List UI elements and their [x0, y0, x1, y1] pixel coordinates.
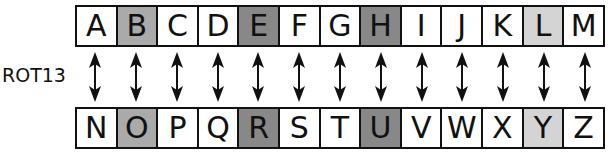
- letter-cell-z: Z: [564, 109, 603, 147]
- letter-cell-i: I: [402, 7, 443, 45]
- double-arrow-icon: [279, 50, 320, 104]
- letter-cell-x: X: [483, 109, 524, 147]
- letter-cell-k: K: [483, 7, 524, 45]
- letter-cell-e: E: [239, 7, 280, 45]
- double-arrow-icon: [442, 50, 483, 104]
- double-arrow-icon: [320, 50, 361, 104]
- letter-cell-r: R: [239, 109, 280, 147]
- mapping-arrows: [75, 50, 605, 104]
- letter-cell-n: N: [77, 109, 118, 147]
- double-arrow-icon: [564, 50, 605, 104]
- letter-cell-u: U: [361, 109, 402, 147]
- letter-cell-o: O: [118, 109, 159, 147]
- letter-cell-j: J: [442, 7, 483, 45]
- letter-cell-s: S: [280, 109, 321, 147]
- double-arrow-icon: [157, 50, 198, 104]
- letter-cell-y: Y: [524, 109, 565, 147]
- letter-cell-l: L: [524, 7, 565, 45]
- bottom-alphabet-row: NOPQRSTUVWXYZ: [75, 107, 605, 149]
- letter-cell-m: M: [564, 7, 603, 45]
- double-arrow-icon: [238, 50, 279, 104]
- double-arrow-icon: [483, 50, 524, 104]
- letter-cell-b: B: [118, 7, 159, 45]
- letter-cell-q: Q: [199, 109, 240, 147]
- rot13-label: ROT13: [2, 64, 66, 86]
- letter-cell-p: P: [158, 109, 199, 147]
- letter-cell-f: F: [280, 7, 321, 45]
- letter-cell-a: A: [77, 7, 118, 45]
- letter-cell-d: D: [199, 7, 240, 45]
- double-arrow-icon: [75, 50, 116, 104]
- double-arrow-icon: [116, 50, 157, 104]
- double-arrow-icon: [197, 50, 238, 104]
- letter-cell-w: W: [442, 109, 483, 147]
- letter-cell-t: T: [321, 109, 362, 147]
- double-arrow-icon: [523, 50, 564, 104]
- letter-cell-g: G: [321, 7, 362, 45]
- letter-cell-v: V: [402, 109, 443, 147]
- top-alphabet-row: ABCDEFGHIJKLM: [75, 5, 605, 47]
- double-arrow-icon: [401, 50, 442, 104]
- letter-cell-h: H: [361, 7, 402, 45]
- double-arrow-icon: [360, 50, 401, 104]
- letter-cell-c: C: [158, 7, 199, 45]
